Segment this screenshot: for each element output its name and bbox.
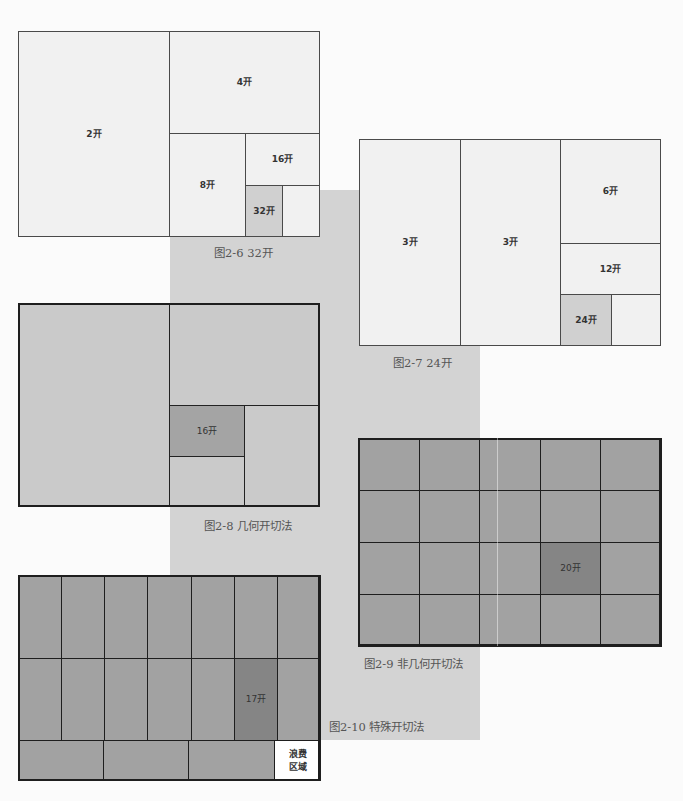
grid-piece [358,438,420,491]
piece-24k-blank [611,294,661,346]
grid-piece [600,490,662,543]
grid-piece [104,575,148,659]
bottom-piece [188,740,275,781]
grid-piece [600,542,662,595]
grid-piece [147,575,192,659]
grid-piece [479,594,541,647]
grid-piece [18,658,62,741]
waste-area: 浪费区域 [274,740,321,781]
caption-fig-2-8: 图2-8 几何开切法 [204,517,292,533]
piece-3k-a: 3开 [359,139,461,346]
grid-piece [61,658,105,741]
grid-piece [191,658,235,741]
piece-4k: 4开 [169,31,320,134]
piece-top-right [169,303,320,406]
figure-2-9: 20开 [358,438,661,646]
piece-right-tall [244,405,320,507]
grid-piece [479,542,541,595]
grid-piece [479,438,541,491]
piece-12k: 12开 [560,243,661,295]
grid-piece [540,490,601,543]
piece-16k-highlight: 16开 [169,405,245,457]
grid-piece [358,594,420,647]
caption-fig-2-6: 图2-6 32开 [214,244,273,260]
waste-label-line2: 区域 [289,762,307,772]
grid-piece [277,575,321,659]
bottom-piece [18,740,104,781]
grid-piece [540,594,601,647]
piece-17k-highlight: 17开 [234,658,278,741]
grid-piece [234,575,278,659]
grid-piece [419,438,480,491]
piece-bottom-small [169,456,245,507]
grid-piece [18,575,62,659]
caption-fig-2-10: 图2-10 特殊开切法 [329,718,425,734]
grid-piece [419,542,480,595]
grid-piece [419,490,480,543]
scan-streak [497,438,498,646]
grid-piece [147,658,192,741]
caption-fig-2-9: 图2-9 非几何开切法 [364,655,463,671]
piece-16k: 16开 [245,133,320,186]
piece-32k-highlight: 32开 [245,185,283,237]
grid-piece [191,575,235,659]
grid-piece [358,542,420,595]
figure-2-7: 3开 3开 6开 12开 24开 [359,139,661,346]
piece-20k-highlight: 20开 [540,542,601,595]
piece-8k: 8开 [169,133,246,237]
bottom-piece [103,740,189,781]
waste-label-line1: 浪费 [289,749,307,759]
figure-2-8: 16开 [18,303,320,507]
grid-piece [358,490,420,543]
grid-piece [104,658,148,741]
grid-piece [600,594,662,647]
piece-3k-b: 3开 [460,139,561,346]
piece-24k-highlight: 24开 [560,294,612,346]
piece-2k: 2开 [18,31,170,237]
grid-piece [277,658,321,741]
figure-2-10: 17开浪费区域 [18,575,320,781]
piece-left-half [18,303,170,507]
grid-piece [419,594,480,647]
grid-piece [61,575,105,659]
figure-2-6: 2开 4开 8开 16开 32开 [18,31,320,237]
piece-6k: 6开 [560,139,661,244]
grid-piece [540,438,601,491]
grid-piece [600,438,662,491]
caption-fig-2-7: 图2-7 24开 [393,354,452,370]
piece-32k-blank [282,185,320,237]
grid-piece [479,490,541,543]
